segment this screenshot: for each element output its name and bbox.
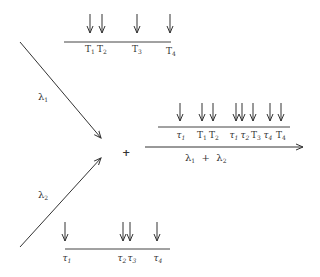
- event-label: T2: [209, 131, 219, 142]
- event-label: τ1: [230, 131, 239, 142]
- lambda-subscript: 1: [44, 96, 48, 103]
- event-label: τ1: [177, 131, 186, 142]
- event-label: τ4: [154, 254, 163, 265]
- process-1-rate-label: λ1: [38, 92, 48, 105]
- event-label: T4: [166, 47, 176, 58]
- event-label: T2: [97, 45, 107, 56]
- plus-sign: +: [202, 152, 210, 163]
- event-label: T1: [197, 131, 207, 142]
- lambda-subscript: 1: [191, 157, 195, 164]
- lambda-subscript: 2: [44, 194, 48, 201]
- event-label: T4: [276, 131, 286, 142]
- event-label: τ2: [118, 254, 127, 265]
- process-1-input-arrow-icon: [20, 42, 101, 138]
- superposition-operator: +: [122, 148, 130, 158]
- event-label: T3: [251, 131, 261, 142]
- event-label: τ3: [128, 254, 137, 265]
- event-label: τ2: [241, 131, 250, 142]
- process-2-rate-label: λ2: [38, 190, 48, 203]
- process-1-timeline: [64, 14, 171, 42]
- merged-rate-label: λ1 + λ2: [185, 153, 226, 166]
- event-label: T3: [132, 45, 142, 56]
- process-2-timeline: [65, 222, 170, 249]
- lambda-subscript: 2: [223, 157, 227, 164]
- event-label: T1: [85, 45, 95, 56]
- event-label: τ1: [63, 254, 72, 265]
- event-label: τ4: [264, 131, 273, 142]
- process-2-input-arrow-icon: [20, 158, 101, 247]
